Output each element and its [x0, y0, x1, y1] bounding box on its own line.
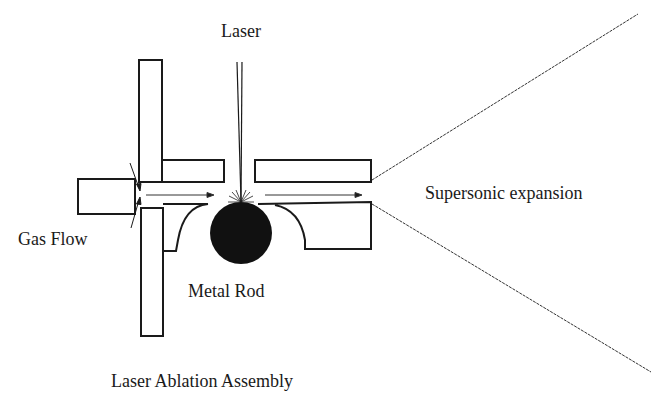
lower-right-block [258, 202, 371, 249]
lower-left-block [163, 204, 208, 251]
expansion-line-upper [372, 14, 638, 180]
metal-rod-label: Metal Rod [188, 282, 265, 300]
caption: Laser Ablation Assembly [111, 372, 293, 390]
laser-beam-right [241, 62, 242, 201]
vertical-plate-top [139, 60, 162, 182]
vertical-plate-bottom [141, 208, 163, 336]
upper-right-block [255, 160, 371, 182]
upper-left-block [162, 160, 224, 182]
expansion-line-lower [372, 204, 651, 372]
laser-label: Laser [221, 22, 261, 40]
laser-beam-left [237, 62, 241, 201]
gas-valve-block [78, 179, 135, 214]
gas-flow-label: Gas Flow [18, 230, 88, 248]
ablation-diagram [0, 0, 671, 411]
supersonic-expansion-label: Supersonic expansion [425, 184, 582, 202]
metal-rod [210, 202, 272, 264]
